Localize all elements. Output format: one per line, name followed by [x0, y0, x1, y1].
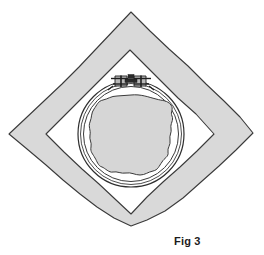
figure-container: Fig 3 — [0, 0, 264, 255]
tension-screw-shaft — [125, 79, 137, 82]
design-area-shape — [89, 95, 172, 175]
figure-caption: Fig 3 — [174, 235, 201, 247]
embroidery-hoop-diagram — [0, 0, 264, 255]
tension-screw-head — [128, 75, 134, 79]
